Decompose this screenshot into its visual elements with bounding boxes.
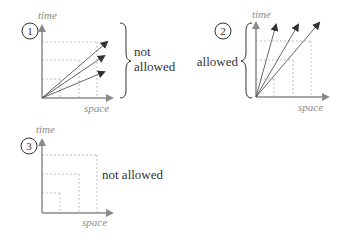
brace-icon (241, 23, 252, 98)
x-axis-label: space (84, 102, 109, 114)
panel-3: 3 time space not allowed (21, 123, 164, 228)
y-axis-label: time (36, 123, 55, 135)
panel-1: 1 time space not allowed (22, 9, 176, 114)
y-axis-label: time (252, 8, 271, 20)
brace-icon (120, 23, 131, 98)
annotation: not allowed (102, 167, 164, 182)
annotation: allowed (197, 54, 239, 69)
y-axis-label: time (38, 9, 57, 21)
diagram-canvas: 1 time space not allowed 2 time space (0, 0, 347, 245)
panel-number: 1 (27, 25, 33, 37)
panel-number: 3 (26, 140, 32, 152)
annotation-line-1: not (134, 44, 151, 59)
annotation-line-2: allowed (134, 59, 176, 74)
grid-dashes (42, 42, 97, 98)
x-axis-label: space (298, 101, 323, 113)
panel-number: 2 (220, 25, 226, 37)
grid-dashes (42, 155, 97, 213)
panel-2: 2 time space allowed (197, 8, 328, 113)
x-axis-label: space (82, 216, 107, 228)
